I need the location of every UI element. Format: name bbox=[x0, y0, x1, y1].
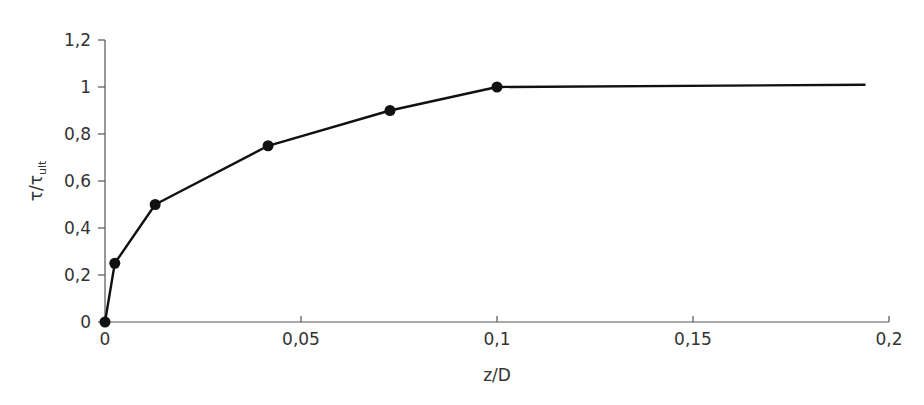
y-axis-title: τ/τult bbox=[26, 160, 49, 201]
data-point-marker bbox=[384, 105, 395, 116]
y-tick-label: 0,2 bbox=[64, 265, 91, 285]
y-tick-label: 0 bbox=[80, 312, 91, 332]
x-tick-label: 0,15 bbox=[674, 329, 712, 349]
data-point-marker bbox=[109, 258, 120, 269]
data-point-marker bbox=[263, 140, 274, 151]
x-tick-label: 0,1 bbox=[483, 329, 510, 349]
tick-labels: 00,050,10,150,200,20,40,60,811,2 bbox=[64, 30, 903, 349]
chart: 00,050,10,150,200,20,40,60,811,2 z/D τ/τ… bbox=[0, 0, 924, 405]
data-point-marker bbox=[492, 82, 503, 93]
y-tick-label: 1,2 bbox=[64, 30, 91, 50]
y-tick-label: 1 bbox=[80, 77, 91, 97]
x-tick-label: 0 bbox=[100, 329, 111, 349]
x-tick-label: 0,2 bbox=[875, 329, 902, 349]
data-point-marker bbox=[150, 199, 161, 210]
data-series bbox=[100, 82, 866, 328]
y-tick-label: 0,6 bbox=[64, 171, 91, 191]
y-tick-label: 0,8 bbox=[64, 124, 91, 144]
axes bbox=[98, 40, 889, 322]
x-axis-title: z/D bbox=[483, 365, 511, 385]
series-line bbox=[105, 85, 866, 322]
x-tick-label: 0,05 bbox=[282, 329, 320, 349]
data-point-marker bbox=[100, 317, 111, 328]
y-tick-label: 0,4 bbox=[64, 218, 91, 238]
